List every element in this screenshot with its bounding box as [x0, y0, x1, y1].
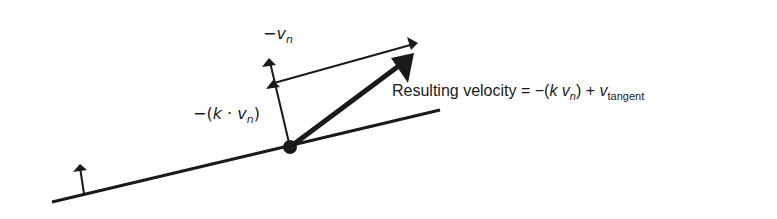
open-paren: −( — [193, 104, 213, 123]
minus-sign: − — [263, 24, 276, 43]
scaled-normal-label: −(k · vn) — [193, 104, 260, 126]
scaled-normal-line — [270, 62, 290, 147]
v-tangent-symbol: v — [600, 82, 608, 99]
tangent-line — [274, 44, 414, 83]
dot-operator: · — [222, 104, 237, 123]
result-text: Resulting velocity = −( — [392, 82, 549, 99]
surface-normal-arrow — [80, 167, 84, 194]
tangent-subscript: tangent — [608, 90, 645, 102]
collision-diagram — [0, 0, 777, 219]
k-symbol: k — [213, 104, 222, 123]
surface-normal-arrowhead — [73, 164, 87, 172]
contact-point — [283, 140, 297, 154]
v-symbol: v — [237, 104, 246, 123]
close-paren: ) — [254, 104, 260, 123]
k-symbol: k — [549, 82, 557, 99]
v-symbol: v — [562, 82, 570, 99]
n-subscript: n — [286, 33, 293, 46]
tangent-arrowhead — [407, 37, 418, 50]
n-subscript: n — [247, 113, 254, 126]
neg-vn-label: −vn — [263, 24, 293, 46]
v-symbol: v — [276, 24, 285, 43]
result-velocity-line — [290, 65, 400, 147]
result-velocity-label: Resulting velocity = −(k vn) + vtangent — [392, 82, 644, 102]
neg-vn-arrowhead — [262, 58, 276, 67]
plus-text: ) + — [576, 82, 600, 99]
